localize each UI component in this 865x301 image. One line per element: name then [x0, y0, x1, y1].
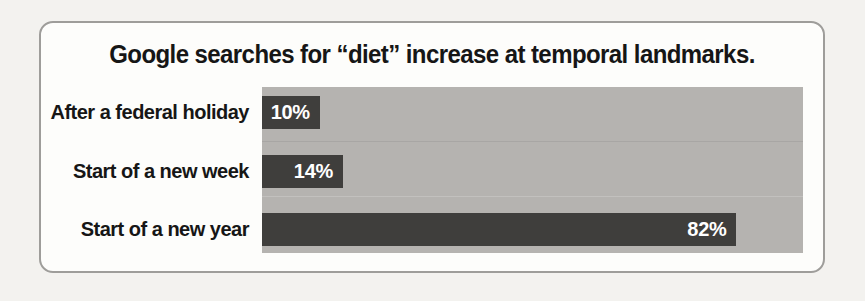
chart-row: After a federal holiday 10% [41, 96, 803, 129]
bar: 82% [262, 213, 736, 246]
bar: 14% [262, 155, 343, 188]
chart-rows: After a federal holiday 10% Start of a n… [41, 87, 803, 253]
bar: 10% [262, 96, 320, 129]
category-label: After a federal holiday [41, 101, 262, 124]
figure-card: Google searches for “diet” increase at t… [39, 21, 825, 273]
bar-chart: After a federal holiday 10% Start of a n… [41, 87, 803, 253]
bar-track: 82% [262, 213, 803, 246]
bar-value-label: 82% [687, 218, 726, 241]
page-background: { "chart_data": { "type": "bar", "orient… [0, 0, 865, 301]
bar-value-label: 14% [294, 160, 333, 183]
bar-track: 10% [262, 96, 803, 129]
category-label: Start of a new week [41, 160, 262, 183]
chart-row: Start of a new year 82% [41, 213, 803, 246]
chart-row: Start of a new week 14% [41, 155, 803, 188]
category-label: Start of a new year [41, 218, 262, 241]
bar-value-label: 10% [271, 101, 310, 124]
bar-track: 14% [262, 155, 803, 188]
chart-title: Google searches for “diet” increase at t… [57, 40, 808, 69]
